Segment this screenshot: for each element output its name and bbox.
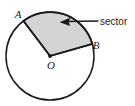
sector-diagram-canvas: A B O sector — [0, 0, 135, 106]
callout-leader-line — [66, 21, 98, 22]
sector-diagram-figure: A B O sector — [0, 0, 135, 106]
label-point-a: A — [14, 8, 22, 20]
callout-label-sector: sector — [100, 16, 128, 27]
center-point-marker — [48, 54, 52, 58]
label-center-o: O — [47, 59, 55, 71]
label-point-b: B — [93, 39, 100, 51]
